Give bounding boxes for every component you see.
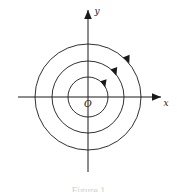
y-axis: y	[84, 6, 100, 172]
direction-arrowhead-icon-inner	[100, 79, 106, 87]
x-axis: x	[18, 93, 169, 108]
y-axis-label: y	[93, 6, 100, 16]
y-axis-arrowhead-icon	[84, 10, 92, 19]
figure-container: x y O Figure 1	[0, 0, 177, 192]
x-axis-label: x	[163, 98, 168, 108]
phase-portrait-diagram: x y O	[0, 0, 177, 192]
figure-caption: Figure 1	[0, 186, 177, 192]
direction-arrowhead-icon-outer	[123, 55, 130, 64]
origin-label: O	[84, 98, 92, 109]
x-axis-arrowhead-icon	[152, 93, 161, 101]
direction-arrow-group	[100, 55, 129, 88]
direction-arrowhead-icon-middle	[111, 67, 118, 76]
